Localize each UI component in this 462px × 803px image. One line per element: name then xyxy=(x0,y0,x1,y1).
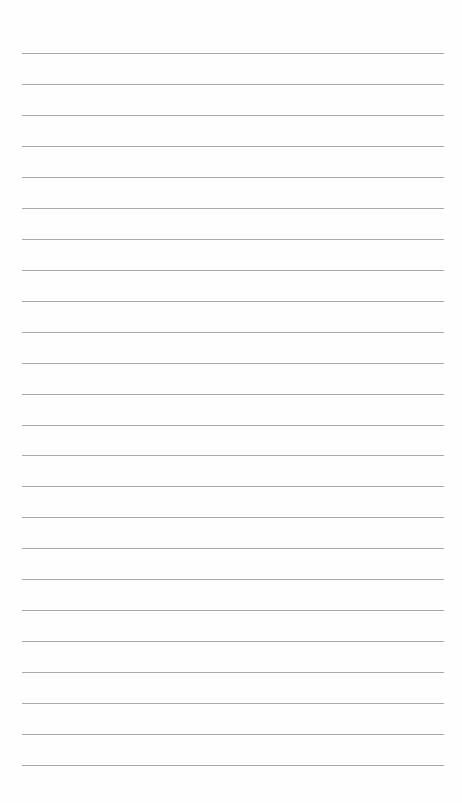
ruled-line xyxy=(22,53,444,54)
ruled-line xyxy=(22,363,444,364)
ruled-line xyxy=(22,579,444,580)
ruled-line xyxy=(22,610,444,611)
ruled-line xyxy=(22,517,444,518)
ruled-line xyxy=(22,208,444,209)
ruled-line xyxy=(22,765,444,766)
ruled-line xyxy=(22,301,444,302)
ruled-line xyxy=(22,425,444,426)
ruled-line xyxy=(22,146,444,147)
ruled-line xyxy=(22,703,444,704)
ruled-line xyxy=(22,239,444,240)
ruled-line xyxy=(22,455,444,456)
ruled-line xyxy=(22,394,444,395)
ruled-line xyxy=(22,672,444,673)
lined-paper-page xyxy=(0,0,462,803)
ruled-line xyxy=(22,177,444,178)
ruled-line xyxy=(22,641,444,642)
ruled-line xyxy=(22,734,444,735)
ruled-line xyxy=(22,270,444,271)
ruled-line xyxy=(22,115,444,116)
ruled-line xyxy=(22,486,444,487)
ruled-line xyxy=(22,84,444,85)
ruled-line xyxy=(22,548,444,549)
ruled-line xyxy=(22,332,444,333)
